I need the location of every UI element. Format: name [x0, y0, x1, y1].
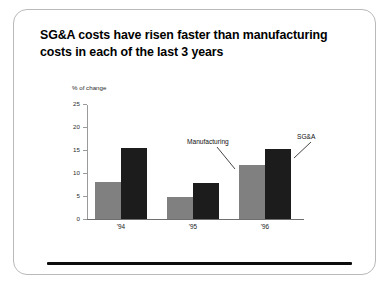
slide-card: SG&A costs have risen faster than manufa… [13, 9, 376, 275]
callout-sga: SG&A [297, 133, 315, 140]
callout-manufacturing: Manufacturing [187, 138, 229, 145]
bar-chart: % of change 0510152025 '94'95'96 Manufac… [14, 10, 377, 276]
footer-rule [47, 262, 352, 265]
